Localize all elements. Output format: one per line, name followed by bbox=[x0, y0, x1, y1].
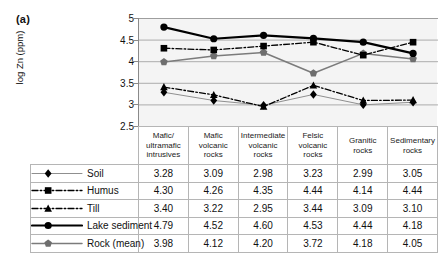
y-tick-mark bbox=[132, 104, 138, 105]
series-soil bbox=[161, 88, 417, 109]
marker-circle bbox=[310, 35, 317, 42]
legend-marker-icon bbox=[31, 219, 83, 232]
y-tick-label: 5 bbox=[104, 13, 134, 24]
series-rock-mean bbox=[160, 49, 417, 77]
data-cell: 3.98 bbox=[139, 235, 189, 253]
data-cell: 4.35 bbox=[238, 182, 288, 200]
data-cell: 4.44 bbox=[338, 217, 388, 235]
data-cell: 3.22 bbox=[188, 200, 238, 218]
legend-label: Till bbox=[87, 203, 99, 214]
data-cell: 4.44 bbox=[388, 182, 438, 200]
legend-label: Soil bbox=[87, 168, 104, 179]
legend-swatch-diamond bbox=[31, 167, 83, 180]
category-header-line: intrusives bbox=[139, 150, 188, 159]
series-till bbox=[160, 81, 417, 109]
series-line bbox=[164, 85, 413, 106]
legend-item: Lake sediment bbox=[31, 217, 139, 235]
marker-triangle bbox=[310, 81, 318, 88]
category-header-line: Felsic bbox=[288, 131, 337, 140]
legend-header-spacer bbox=[31, 127, 139, 165]
marker-square bbox=[210, 47, 217, 54]
data-cell: 3.44 bbox=[288, 200, 338, 218]
y-tick-mark bbox=[132, 83, 138, 84]
table-row: Till3.403.222.953.443.093.10 bbox=[31, 200, 438, 218]
marker-square bbox=[360, 52, 367, 59]
data-cell: 4.18 bbox=[338, 235, 388, 253]
legend-swatch-pentagon bbox=[31, 237, 83, 250]
data-cell: 3.72 bbox=[288, 235, 338, 253]
category-header-line: Sedimentary bbox=[388, 136, 437, 145]
marker-square bbox=[260, 43, 267, 50]
marker-pentagon bbox=[310, 69, 318, 76]
series-line bbox=[164, 92, 413, 105]
category-header-line: Intermediate bbox=[239, 131, 288, 140]
marker-triangle bbox=[160, 83, 168, 90]
category-header-line: volcanic bbox=[189, 141, 238, 150]
legend-label: Rock (mean) bbox=[87, 238, 144, 249]
y-tick-mark bbox=[132, 18, 138, 19]
legend-marker-icon bbox=[31, 202, 83, 215]
category-header-line: Granitic bbox=[338, 136, 387, 145]
legend-marker-icon bbox=[31, 167, 83, 180]
legend-swatch-circle bbox=[31, 219, 83, 232]
data-cell: 3.28 bbox=[139, 165, 189, 183]
marker-circle bbox=[45, 222, 52, 229]
data-cell: 2.99 bbox=[338, 165, 388, 183]
marker-diamond bbox=[45, 169, 52, 177]
data-cell: 3.10 bbox=[388, 200, 438, 218]
y-tick-label: 4 bbox=[104, 56, 134, 67]
marker-pentagon bbox=[260, 49, 268, 56]
table-header-row: Mafic/ultramaficintrusivesMaficvolcanicr… bbox=[31, 127, 438, 165]
y-axis-ticks: 54.543.532.5 bbox=[100, 0, 134, 140]
data-table: Mafic/ultramaficintrusivesMaficvolcanicr… bbox=[30, 126, 438, 253]
marker-circle bbox=[260, 32, 267, 39]
data-cell: 4.44 bbox=[288, 182, 338, 200]
table-body: Soil3.283.092.983.232.993.05Humus4.304.2… bbox=[31, 165, 438, 253]
data-cell: 4.30 bbox=[139, 182, 189, 200]
marker-circle bbox=[409, 50, 416, 57]
category-header-line: rocks bbox=[189, 150, 238, 159]
marker-circle bbox=[360, 39, 367, 46]
category-header: Sedimentaryrocks bbox=[388, 127, 438, 165]
category-header-line: rocks bbox=[239, 150, 288, 159]
category-header-line: ultramafic bbox=[139, 141, 188, 150]
marker-diamond bbox=[310, 90, 317, 98]
legend-label: Lake sediment bbox=[87, 220, 152, 231]
table-row: Humus4.304.264.354.444.144.44 bbox=[31, 182, 438, 200]
y-tick-mark bbox=[132, 40, 138, 41]
data-cell: 3.40 bbox=[139, 200, 189, 218]
marker-pentagon bbox=[44, 239, 52, 246]
data-cell: 4.05 bbox=[388, 235, 438, 253]
category-header-line: rocks bbox=[288, 150, 337, 159]
data-cell: 3.09 bbox=[188, 165, 238, 183]
legend-item: Till bbox=[31, 200, 139, 218]
data-cell: 3.09 bbox=[338, 200, 388, 218]
data-cell: 4.60 bbox=[238, 217, 288, 235]
marker-square bbox=[45, 187, 52, 194]
data-cell: 3.23 bbox=[288, 165, 338, 183]
marker-pentagon bbox=[160, 58, 168, 65]
data-cell: 4.14 bbox=[338, 182, 388, 200]
legend-item: Rock (mean) bbox=[31, 235, 139, 253]
legend-label: Humus bbox=[87, 185, 119, 196]
table-row: Soil3.283.092.983.232.993.05 bbox=[31, 165, 438, 183]
table-row: Lake sediment4.794.524.604.534.444.18 bbox=[31, 217, 438, 235]
category-header: Maficvolcanicrocks bbox=[188, 127, 238, 165]
data-cell: 4.12 bbox=[188, 235, 238, 253]
table-row: Rock (mean)3.984.124.203.724.184.05 bbox=[31, 235, 438, 253]
y-tick-label: 4.5 bbox=[104, 34, 134, 45]
category-header: Felsicvolcanicrocks bbox=[288, 127, 338, 165]
line-chart: log Zn (ppm) 54.543.532.5 bbox=[0, 0, 444, 140]
y-axis-title: log Zn (ppm) bbox=[14, 13, 25, 103]
plot-area bbox=[138, 18, 437, 126]
category-header: Intermediatevolcanicrocks bbox=[238, 127, 288, 165]
category-header: Mafic/ultramaficintrusives bbox=[139, 127, 189, 165]
y-tick-label: 3 bbox=[104, 99, 134, 110]
data-cell: 4.26 bbox=[188, 182, 238, 200]
legend-marker-icon bbox=[31, 184, 83, 197]
marker-square bbox=[161, 45, 168, 52]
data-cell: 4.52 bbox=[188, 217, 238, 235]
category-header-line: Mafic bbox=[189, 131, 238, 140]
category-header-line: volcanic bbox=[239, 141, 288, 150]
data-cell: 4.18 bbox=[388, 217, 438, 235]
